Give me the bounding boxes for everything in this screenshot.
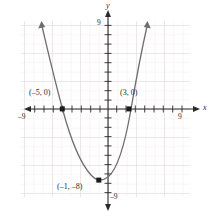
y-axis-label: y bbox=[106, 2, 110, 10]
point-root-right bbox=[127, 106, 132, 111]
point-label-root-right: (3, 0) bbox=[120, 89, 137, 97]
x-tick-label-right: 9 bbox=[178, 113, 182, 121]
point-root-left bbox=[60, 106, 65, 111]
x-axis-label: x bbox=[203, 104, 207, 112]
coordinate-graph-figure: y x 9 –9 –9 9 (–5, 0) (3, 0) (–1, –8) bbox=[0, 0, 215, 217]
y-tick-label-top: 9 bbox=[97, 19, 101, 27]
graph-canvas bbox=[0, 0, 215, 217]
point-vertex bbox=[96, 178, 101, 183]
point-label-vertex: (–1, –8) bbox=[57, 183, 82, 191]
point-label-root-left: (–5, 0) bbox=[29, 89, 50, 97]
x-tick-label-left: –9 bbox=[18, 113, 26, 121]
y-tick-label-bottom: –9 bbox=[110, 193, 118, 201]
